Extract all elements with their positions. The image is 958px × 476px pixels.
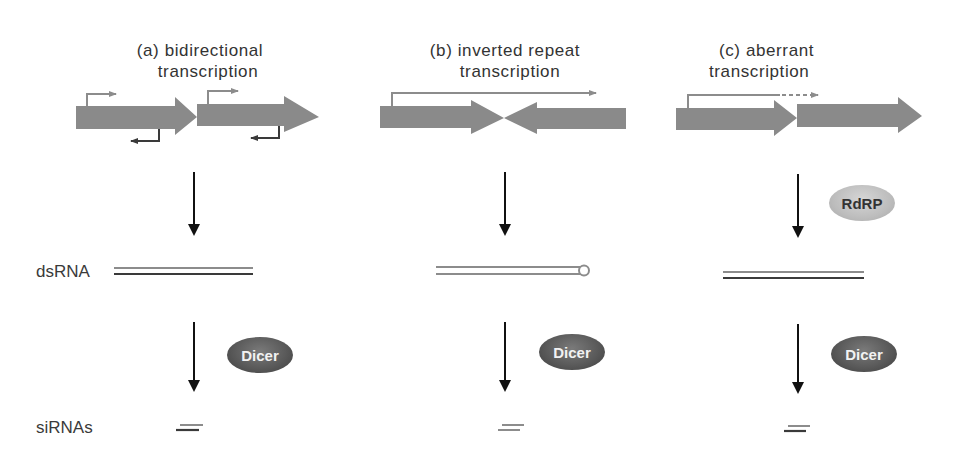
dicer-enzyme-c: Dicer (831, 336, 897, 372)
hairpin-loop (579, 266, 589, 276)
panel-b-genes (380, 93, 626, 134)
panel-a-genes (76, 91, 319, 141)
gene-arrow-a2 (197, 96, 319, 132)
gene-arrow-c2 (797, 97, 922, 133)
dicer-enzyme-a: Dicer (227, 337, 293, 373)
panel-c-genes (676, 95, 922, 136)
transcript-aberrant-c (688, 95, 780, 108)
flow-arrows-row1 (188, 172, 804, 238)
sirna-shapes (176, 425, 810, 431)
gene-arrow-b1 (380, 100, 504, 134)
promoter-forward-a2 (208, 91, 238, 104)
down-arrow-icon (188, 224, 200, 236)
dsrna-shapes (114, 266, 864, 279)
down-arrow-icon (792, 382, 804, 394)
dicer-label-b: Dicer (553, 344, 591, 361)
dicer-label-c: Dicer (845, 346, 883, 363)
down-arrow-icon (188, 380, 200, 392)
dicer-label-a: Dicer (241, 347, 279, 364)
gene-arrow-b2 (504, 102, 626, 134)
down-arrow-icon (792, 226, 804, 238)
promoter-reverse-a2 (251, 126, 279, 138)
dicer-enzyme-b: Dicer (539, 334, 605, 370)
down-arrow-icon (499, 224, 511, 236)
rdrp-enzyme: RdRP (829, 185, 895, 221)
down-arrow-icon (499, 380, 511, 392)
transcript-readthrough-b (392, 93, 596, 106)
promoter-forward-a1 (87, 94, 116, 106)
rdrp-label: RdRP (842, 195, 883, 212)
gene-arrow-a1 (76, 97, 197, 135)
gene-arrow-c1 (676, 100, 797, 136)
diagram-canvas (0, 0, 958, 476)
promoter-reverse-a1 (131, 129, 159, 141)
